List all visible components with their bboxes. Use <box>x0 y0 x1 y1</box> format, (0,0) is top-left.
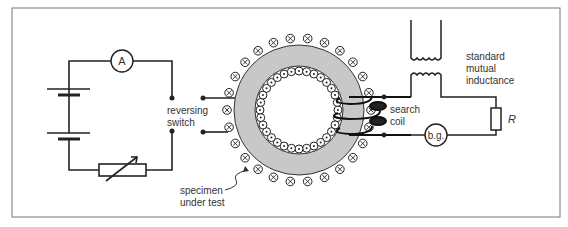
galvanometer-label: b.g. <box>428 130 445 141</box>
resistor-label: R <box>508 113 516 125</box>
toroid-specimen <box>234 45 364 175</box>
specimen-label: specimen <box>180 185 223 196</box>
reversing-switch-label-2: switch <box>167 117 195 128</box>
circuit-diagram: A reversing switch search coil specimen … <box>0 0 568 227</box>
specimen-pointer <box>225 170 247 190</box>
specimen-label-2: under test <box>180 197 225 208</box>
ballistic-galvanometer: b.g. <box>425 124 447 146</box>
mutual-label-1: standard <box>466 51 505 62</box>
ammeter: A <box>111 50 133 72</box>
search-coil-label-2: coil <box>390 116 405 127</box>
primary-circuit <box>47 61 262 181</box>
mutual-label-2: mutual <box>466 63 496 74</box>
search-coil-label: search <box>390 104 420 115</box>
ammeter-label: A <box>118 55 126 67</box>
mutual-label-3: inductance <box>466 75 515 86</box>
reversing-switch-label: reversing <box>167 105 208 116</box>
